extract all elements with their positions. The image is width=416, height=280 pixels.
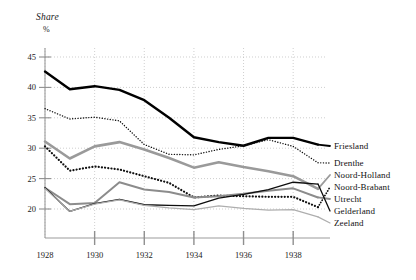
series-line-friesland [45, 72, 318, 146]
legend-item-drenthe: Drenthe [334, 158, 364, 168]
x-tick-label: 1934 [177, 250, 211, 260]
series-line-noord-holland [45, 142, 318, 189]
y-tick-label: 20 [18, 204, 36, 214]
x-tick-label: 1938 [276, 250, 310, 260]
plot-area [0, 0, 416, 280]
y-tick-label: 40 [18, 82, 36, 92]
legend-item-friesland: Friesland [334, 141, 368, 151]
series-line-utrecht [45, 182, 318, 204]
y-axis-unit-label: % [43, 25, 50, 34]
series-line-drenthe [45, 109, 318, 163]
x-tick-label: 1936 [227, 250, 261, 260]
y-tick-label: 25 [18, 174, 36, 184]
x-tick-label: 1928 [28, 250, 62, 260]
data-series-group [45, 72, 318, 217]
x-tick-label: 1930 [78, 250, 112, 260]
y-tick-label: 45 [18, 52, 36, 62]
series-line-noord-brabant [45, 146, 318, 207]
legend-item-noord-brabant: Noord-Brabant [334, 182, 390, 192]
legend-item-utrecht: Utrecht [334, 194, 362, 204]
x-tick-label: 1932 [127, 250, 161, 260]
legend-item-noord-holland: Noord-Holland [334, 170, 390, 180]
y-axis-title: Share [36, 12, 59, 22]
y-tick-label: 35 [18, 113, 36, 123]
legend-item-gelderland: Gelderland [334, 206, 375, 216]
legend-item-zeeland: Zeeland [334, 218, 364, 228]
chart-figure: Share % 454035302520 1928193019321934193… [0, 0, 416, 280]
y-tick-label: 30 [18, 143, 36, 153]
legend-leader-lines [318, 145, 330, 223]
